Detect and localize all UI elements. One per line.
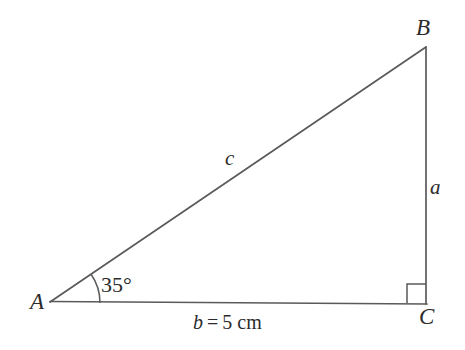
side-b-line <box>50 302 427 305</box>
vertex-label-a: A <box>30 290 44 313</box>
measurement-symbol: b <box>193 311 203 333</box>
side-c-line <box>50 47 426 302</box>
side-label-a: a <box>430 177 441 198</box>
triangle-diagram: A B C a c 35° b=5cm <box>0 0 465 350</box>
side-b-measurement-label: b=5cm <box>193 312 262 332</box>
angle-label-35-degrees: 35° <box>101 274 132 296</box>
measurement-value: 5 <box>222 311 232 333</box>
measurement-unit: cm <box>237 311 261 333</box>
measurement-equals: = <box>207 311 218 333</box>
triangle-drawing <box>0 0 465 350</box>
angle-arc-at-a <box>91 274 100 303</box>
vertex-label-c: C <box>419 305 434 328</box>
right-angle-marker-at-c <box>407 284 426 303</box>
vertex-label-b: B <box>416 16 430 39</box>
side-label-c: c <box>225 148 234 169</box>
